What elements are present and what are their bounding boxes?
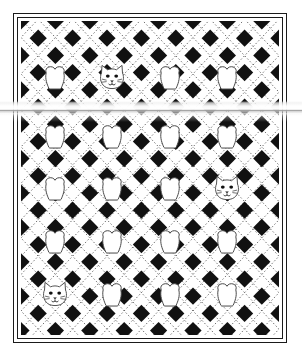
heart-outline [161,284,179,306]
cat-eye-right [57,292,61,295]
heart-outline [103,231,121,253]
heart-outline [103,126,121,148]
quilt-field [21,21,279,335]
heart-motif [218,231,236,253]
heart-motif [46,67,64,89]
heart-motif [103,284,121,306]
heart-motif [161,126,179,148]
heart-outline [46,126,64,148]
cat-head-outline [101,65,124,88]
cat-face-motif [216,176,239,199]
heart-outline [218,284,236,306]
cat-eye-right [229,186,233,189]
heart-outline [46,231,64,253]
heart-motif [161,178,179,200]
heart-outline [161,126,179,148]
heart-outline [103,178,121,200]
cat-eye-left [106,75,110,78]
heart-motif [103,231,121,253]
heart-outline [218,126,236,148]
cat-eye-right [114,75,118,78]
heart-outline [46,67,64,89]
heart-motif [218,67,236,89]
cat-head-outline [216,176,239,199]
heart-outline [161,231,179,253]
heart-motif [161,284,179,306]
quilt-lattice [21,21,279,335]
heart-outline [46,178,64,200]
cat-eye-left [221,186,225,189]
heart-outline [161,178,179,200]
heart-outline [218,231,236,253]
heart-motif [46,178,64,200]
heart-outline [218,67,236,89]
heart-motif [103,126,121,148]
heart-motif [161,67,179,89]
cat-head-outline [44,282,67,305]
heart-motif [218,284,236,306]
heart-outline [161,67,179,89]
heart-motif [161,231,179,253]
heart-motif [218,126,236,148]
heart-motif [103,178,121,200]
cat-face-motif [101,65,124,88]
cat-face-motif [44,282,67,305]
heart-outline [103,284,121,306]
heart-motif [46,126,64,148]
quilt-pattern-page [0,0,302,360]
heart-motif [46,231,64,253]
cat-eye-left [49,292,53,295]
